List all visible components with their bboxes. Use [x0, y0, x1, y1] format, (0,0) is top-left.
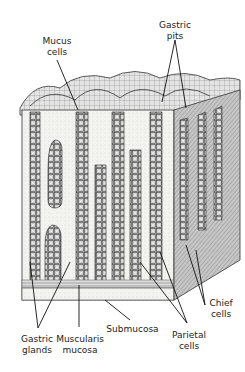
- label-mucus-cells: Mucus cells: [38, 36, 76, 58]
- front-face: [22, 110, 174, 300]
- label-line: Chief: [205, 298, 237, 309]
- label-chief-cells: Chief cells: [205, 298, 237, 320]
- label-submucosa: Submucosa: [105, 324, 160, 335]
- label-gastric-glands: Gastric glands: [18, 334, 56, 356]
- label-muscularis-mucosa: Muscularis mucosa: [55, 334, 105, 356]
- label-line: pits: [155, 31, 195, 42]
- label-line: Mucus: [38, 36, 76, 47]
- label-line: glands: [18, 345, 56, 356]
- label-parietal-cells: Parietal cells: [168, 330, 210, 352]
- label-line: cells: [168, 341, 210, 352]
- label-line: cells: [38, 47, 76, 58]
- label-line: mucosa: [55, 345, 105, 356]
- label-line: Parietal: [168, 330, 210, 341]
- side-face: [174, 90, 240, 300]
- label-line: Submucosa: [105, 324, 160, 335]
- label-line: cells: [205, 309, 237, 320]
- label-line: Muscularis: [55, 334, 105, 345]
- label-line: Gastric: [18, 334, 56, 345]
- label-line: Gastric: [155, 20, 195, 31]
- label-gastric-pits: Gastric pits: [155, 20, 195, 42]
